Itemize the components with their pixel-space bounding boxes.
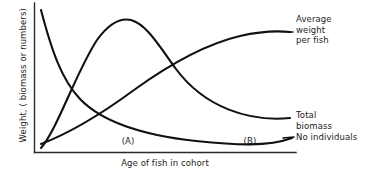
annotation-phase-a: (A) bbox=[114, 136, 142, 147]
annotation-phase-b: (B) bbox=[236, 136, 264, 147]
series-label-average-weight: Average weight per fish bbox=[296, 14, 372, 46]
leader-line-no-individuals bbox=[283, 137, 294, 138]
curve-total-biomass bbox=[41, 20, 290, 148]
series-label-no-individuals: No individuals bbox=[296, 132, 372, 143]
y-axis-label: Weight, ( biomass or numbers) bbox=[18, 5, 29, 145]
series-label-total-biomass: Total biomass bbox=[296, 110, 366, 131]
x-axis-label: Age of fish in cohort bbox=[34, 158, 296, 169]
curve-average-weight bbox=[41, 31, 290, 144]
chart-figure: Weight, ( biomass or numbers) Age of fis… bbox=[0, 0, 375, 174]
curve-no-individuals bbox=[41, 10, 292, 144]
